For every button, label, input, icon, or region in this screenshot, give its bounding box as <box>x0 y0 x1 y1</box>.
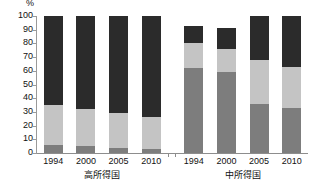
bar-segment-middle <box>184 43 203 68</box>
stacked-bar-chart: % 0102030405060708090100 199420002005201… <box>0 0 310 188</box>
stacked-bar[interactable] <box>44 16 63 153</box>
y-axis-tick-label: 90 <box>23 25 33 34</box>
bar-segment-bottom <box>142 149 161 153</box>
x-axis-tick-label: 2010 <box>272 156 310 166</box>
stacked-bar[interactable] <box>76 16 95 153</box>
bar-segment-bottom <box>109 148 128 153</box>
y-axis-tick-label: 70 <box>23 52 33 61</box>
bar-group-caption: 高所得国 <box>37 170 168 180</box>
bar-segment-bottom <box>76 146 95 153</box>
y-axis-tick-label: 30 <box>23 107 33 116</box>
bar-segment-top <box>142 16 161 117</box>
bar-segment-top <box>217 28 236 49</box>
y-axis-tick-label: 40 <box>23 93 33 102</box>
bar-segment-bottom <box>282 108 301 153</box>
plot-area <box>37 16 308 153</box>
bar-segment-bottom <box>250 104 269 153</box>
bar-segment-middle <box>76 109 95 146</box>
y-axis-tick-label: 20 <box>23 121 33 130</box>
bar-segment-top <box>76 16 95 109</box>
bar-segment-middle <box>282 67 301 108</box>
stacked-bar[interactable] <box>184 26 203 153</box>
bar-segment-top <box>109 16 128 113</box>
stacked-bar[interactable] <box>282 16 301 153</box>
stacked-bar[interactable] <box>109 16 128 153</box>
bar-segment-top <box>44 16 63 105</box>
y-axis-tick-label: 80 <box>23 38 33 47</box>
bar-group <box>178 16 309 153</box>
x-axis-tick-label: 2010 <box>131 156 171 166</box>
bar-segment-top <box>250 16 269 60</box>
bar-segment-top <box>184 26 203 44</box>
y-axis-tick-mark <box>33 153 37 154</box>
bar-segment-bottom <box>184 68 203 153</box>
x-axis-line <box>36 153 308 154</box>
bar-group-caption: 中所得国 <box>178 170 309 180</box>
x-axis-group-separator <box>168 153 169 157</box>
y-axis-tick-label: 100 <box>18 11 33 20</box>
bar-segment-bottom <box>44 145 63 153</box>
stacked-bar[interactable] <box>142 16 161 153</box>
bar-segment-middle <box>217 49 236 72</box>
bar-segment-top <box>282 16 301 67</box>
bar-segment-middle <box>142 117 161 149</box>
stacked-bar[interactable] <box>250 16 269 153</box>
bar-segment-middle <box>44 105 63 145</box>
x-axis-group-separator <box>175 153 176 157</box>
bar-group <box>37 16 168 153</box>
bar-segment-middle <box>250 60 269 104</box>
y-axis-tick-label: 50 <box>23 80 33 89</box>
y-axis-unit-label: % <box>26 0 34 8</box>
stacked-bar[interactable] <box>217 28 236 153</box>
y-axis-tick-label: 10 <box>23 134 33 143</box>
bar-segment-middle <box>109 113 128 147</box>
bar-segment-bottom <box>217 72 236 153</box>
y-axis-tick-label: 60 <box>23 66 33 75</box>
